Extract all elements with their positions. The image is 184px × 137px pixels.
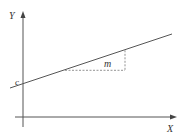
gradient-label: m xyxy=(104,58,111,69)
x-axis xyxy=(15,115,177,120)
x-axis-arrow-icon xyxy=(170,115,177,120)
x-axis-label: X xyxy=(166,123,174,134)
y-axis-label: Y xyxy=(9,10,16,21)
intercept-label: c xyxy=(15,77,19,87)
gradient-triangle xyxy=(65,50,125,70)
straight-line xyxy=(10,34,172,88)
y-axis-arrow-icon xyxy=(21,11,26,18)
y-axis xyxy=(21,11,26,127)
line-graph-diagram: Y X c m xyxy=(0,0,184,137)
